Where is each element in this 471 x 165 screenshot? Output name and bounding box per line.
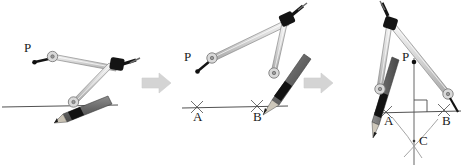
panel-1-drawing (0, 0, 150, 165)
arc-from-a (392, 117, 422, 158)
label-p: P (184, 50, 191, 63)
label-a: A (193, 110, 202, 123)
joint-pivot-1 (207, 53, 217, 63)
panel-step-2: P A B (168, 0, 308, 165)
label-a: A (384, 114, 393, 127)
joint-block-top (380, 1, 399, 31)
right-angle-marker (414, 100, 427, 112)
point-p-dot (195, 69, 200, 74)
joint-pivot-left (375, 84, 385, 94)
arm-upper-right (391, 25, 450, 95)
panel-step-3: P A B C (330, 0, 471, 165)
joint-pivot-2 (269, 68, 279, 78)
point-p-dot (32, 60, 37, 65)
joint-pivot-2 (68, 97, 78, 107)
joint-pivot-1 (47, 51, 57, 61)
label-p: P (402, 50, 409, 63)
panel-step-1: P (0, 0, 150, 165)
point-p-dot (412, 60, 417, 65)
point-p-connector (198, 61, 210, 71)
figure-canvas: P (0, 0, 471, 165)
panel-3-drawing (330, 0, 471, 165)
point-c-dot (413, 140, 416, 143)
label-p: P (24, 41, 31, 54)
label-b: B (442, 114, 451, 127)
joint-block-top (109, 57, 140, 71)
label-b: B (253, 110, 262, 123)
pencil-bar (54, 96, 112, 123)
label-c: C (419, 134, 428, 147)
panel-2-drawing (168, 0, 308, 165)
